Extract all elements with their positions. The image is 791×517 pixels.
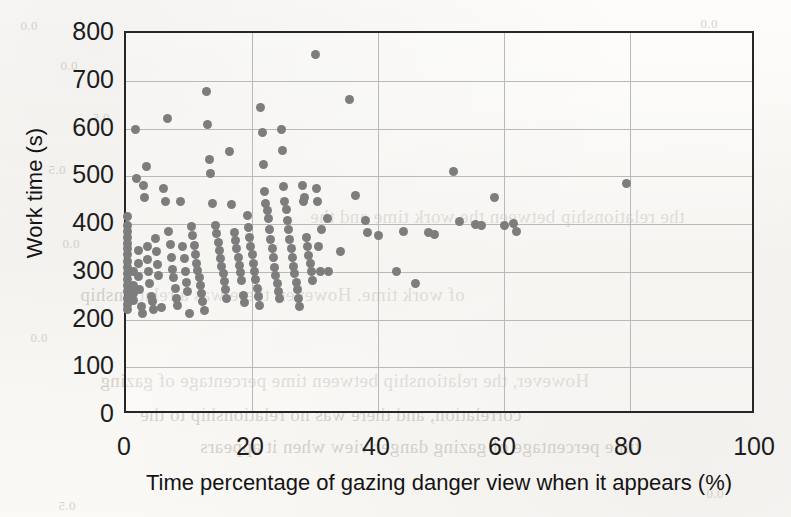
- y-axis-tick-label: 400: [72, 210, 114, 235]
- x-axis-ticks: 020406080100: [0, 434, 791, 468]
- gridline-vertical: [378, 33, 379, 411]
- scatter-point: [288, 253, 297, 262]
- scatter-point: [181, 267, 190, 276]
- scatter-point: [323, 214, 332, 223]
- scatter-point: [336, 247, 345, 256]
- scatter-point: [314, 242, 323, 251]
- scatter-point: [191, 250, 200, 259]
- y-axis-tick-label: 100: [72, 353, 114, 378]
- x-axis-tick-label: 20: [236, 434, 264, 459]
- scatter-point: [182, 278, 191, 287]
- scatter-point: [449, 167, 458, 176]
- scatter-point: [227, 200, 236, 209]
- x-axis-tick-label: 0: [117, 434, 131, 459]
- x-axis-tick-label: 40: [362, 434, 390, 459]
- scatter-point: [345, 95, 354, 104]
- scatter-point: [240, 298, 249, 307]
- scatter-point: [295, 302, 304, 311]
- plot-area: [124, 31, 754, 413]
- scatter-point: [243, 211, 252, 220]
- x-axis-tick-label: 100: [733, 434, 775, 459]
- scatter-point: [154, 271, 163, 280]
- scatter-point: [278, 146, 287, 155]
- scatter-point: [313, 197, 322, 206]
- scatter-point: [151, 234, 160, 243]
- scatter-point: [183, 287, 192, 296]
- scatter-point: [256, 103, 265, 112]
- scatter-point: [139, 181, 148, 190]
- scatter-point: [287, 244, 296, 253]
- scatter-point: [283, 216, 292, 225]
- y-axis-label-wrapper: Work time (s): [0, 0, 40, 440]
- x-axis-label: Time percentage of gazing danger view wh…: [124, 470, 754, 496]
- scatter-point: [307, 267, 316, 276]
- scatter-point: [392, 267, 401, 276]
- scatter-point: [198, 297, 207, 306]
- scatter-point: [134, 272, 143, 281]
- scatter-point: [300, 193, 309, 202]
- scatter-point: [173, 301, 182, 310]
- scatter-point: [411, 279, 420, 288]
- gridline-vertical: [630, 33, 631, 411]
- scatter-point: [282, 205, 291, 214]
- scatter-point: [205, 155, 214, 164]
- gridline-horizontal: [126, 320, 752, 321]
- scatter-point: [312, 184, 321, 193]
- scatter-point: [258, 128, 267, 137]
- scatter-point: [248, 250, 257, 259]
- scatter-point: [153, 260, 162, 269]
- scatter-point: [135, 285, 144, 294]
- scatter-point: [188, 231, 197, 240]
- scatter-point: [302, 233, 311, 242]
- scatter-point: [245, 233, 254, 242]
- y-axis-label: Work time (s): [22, 63, 48, 323]
- scatter-point: [266, 235, 275, 244]
- scatter-point: [157, 303, 166, 312]
- x-axis-tick-label: 80: [614, 434, 642, 459]
- gridline-horizontal: [126, 129, 752, 130]
- y-axis-tick-label: 700: [72, 66, 114, 91]
- x-axis-tick-label: 60: [488, 434, 516, 459]
- scatter-point: [284, 225, 293, 234]
- scatter-point: [311, 50, 320, 59]
- scanned-figure-page: 0.00.00.00.50.5the relationship between …: [0, 0, 791, 517]
- gridline-horizontal: [126, 367, 752, 368]
- scatter-point: [361, 216, 370, 225]
- scatter-point: [143, 255, 152, 264]
- scatter-point: [279, 182, 288, 191]
- scatter-point: [254, 292, 263, 301]
- scatter-point: [152, 247, 161, 256]
- scatter-point: [255, 301, 264, 310]
- scatter-point: [131, 125, 140, 134]
- scatter-point: [285, 235, 294, 244]
- scatter-point: [187, 222, 196, 231]
- y-axis-tick-label: 500: [72, 162, 114, 187]
- scatter-point: [260, 187, 269, 196]
- y-axis-tick-label: 600: [72, 114, 114, 139]
- scatter-point: [399, 227, 408, 236]
- scatter-point: [430, 230, 439, 239]
- scatter-point: [171, 284, 180, 293]
- gridline-horizontal: [126, 81, 752, 82]
- scatter-point: [143, 242, 152, 251]
- scatter-point: [225, 147, 234, 156]
- scatter-point: [200, 306, 209, 315]
- scatter-point: [142, 162, 151, 171]
- scatter-point: [144, 267, 153, 276]
- scatter-point: [363, 228, 372, 237]
- scatter-point: [159, 184, 168, 193]
- scatter-point: [259, 160, 268, 169]
- scatter-point: [180, 254, 189, 263]
- scatter-point: [244, 223, 253, 232]
- scatter-point: [269, 253, 278, 262]
- scatter-point: [237, 276, 246, 285]
- scatter-point: [232, 244, 241, 253]
- scatter-point: [134, 246, 143, 255]
- scatter-point: [265, 225, 274, 234]
- y-axis-tick-label: 0: [100, 401, 114, 426]
- scatter-point: [477, 221, 486, 230]
- scatter-point: [317, 225, 326, 234]
- scatter-point: [138, 309, 147, 318]
- scatter-point: [268, 244, 277, 253]
- gridline-horizontal: [126, 176, 752, 177]
